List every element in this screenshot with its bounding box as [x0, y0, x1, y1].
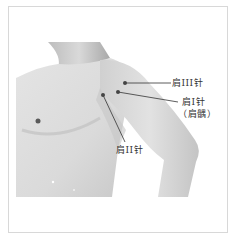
acupoint-jian-ii	[101, 93, 105, 97]
skin-mark	[73, 189, 75, 191]
label-jian-i-alias: （肩髃）	[178, 109, 216, 119]
acupoint-jian-i	[116, 90, 120, 94]
nipple-mark	[36, 119, 41, 124]
skin-mark	[52, 181, 54, 183]
label-jian-i: 肩I针	[182, 97, 205, 107]
label-jian-iii: 肩III针	[172, 78, 203, 88]
acupoint-jian-iii	[123, 81, 127, 85]
label-jian-ii: 肩II针	[116, 145, 143, 155]
shoulder-anatomy-illustration	[0, 0, 233, 244]
